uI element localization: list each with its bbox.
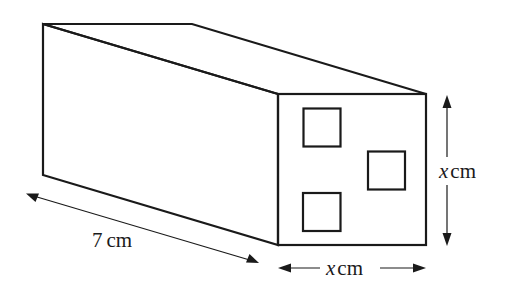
arrowhead-icon: [413, 264, 426, 273]
square-hole-right: [368, 152, 405, 190]
arrowhead-icon: [246, 254, 259, 263]
length-label: 7cm: [92, 228, 132, 252]
front-face: [278, 94, 426, 245]
arrowhead-icon: [443, 233, 452, 246]
arrowhead-icon: [443, 95, 452, 108]
width-label: xcm: [325, 256, 363, 280]
top-face: [43, 24, 426, 94]
height-label: xcm: [438, 159, 476, 183]
arrowhead-icon: [278, 264, 291, 273]
arrowhead-icon: [26, 194, 39, 203]
cuboid-diagram: 7cm xcm xcm: [0, 0, 511, 294]
side-face: [43, 24, 278, 245]
square-hole-top-left: [304, 109, 341, 147]
square-hole-bottom-left: [303, 193, 341, 231]
